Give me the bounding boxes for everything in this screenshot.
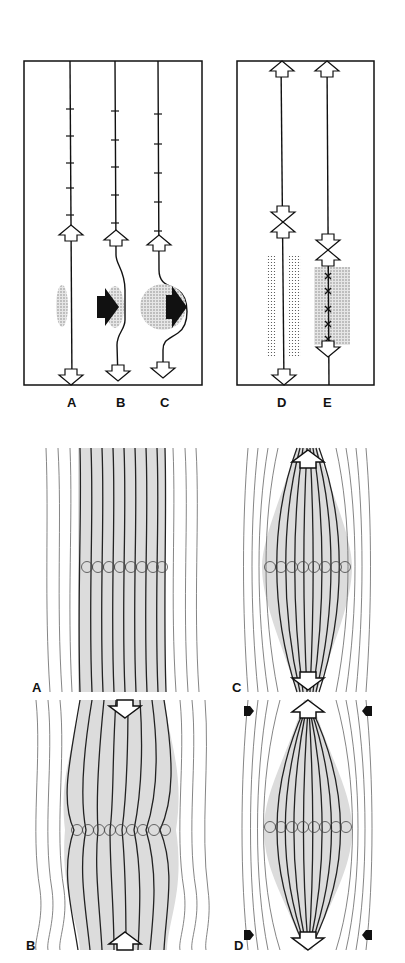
down-arrow-icon — [316, 234, 340, 250]
shaded-band — [314, 267, 350, 345]
label-c: C — [232, 680, 242, 695]
column-e — [314, 61, 350, 385]
constricted-band — [64, 700, 179, 950]
panel-frame — [237, 61, 374, 385]
column-d — [266, 61, 301, 385]
dotted-band-left — [266, 256, 276, 356]
stippled-blob — [56, 285, 68, 327]
label-a: A — [32, 680, 42, 695]
up-arrow-icon — [270, 61, 294, 77]
up-arrow-icon — [147, 235, 171, 251]
label-c: C — [160, 395, 170, 410]
column-a — [56, 61, 83, 385]
label-b: B — [26, 938, 35, 953]
spindle-band — [262, 448, 352, 692]
label-a: A — [67, 395, 77, 410]
column-b — [97, 61, 130, 381]
figure-canvas: A B C — [0, 0, 405, 963]
label-d: D — [234, 938, 243, 953]
bottom-panel-a: A — [32, 448, 199, 695]
up-arrow-icon — [271, 222, 295, 238]
top-right-panel: D E — [237, 61, 374, 410]
label-d: D — [277, 395, 286, 410]
compression-arrow-icon — [362, 930, 372, 940]
up-arrow-icon — [315, 61, 339, 77]
label-e: E — [323, 395, 332, 410]
down-arrow-icon — [59, 369, 83, 385]
outward-arrow-icon — [292, 700, 324, 718]
bottom-panel-d: D — [205, 700, 372, 953]
bottom-panel-b: B — [26, 700, 197, 953]
down-arrow-icon — [271, 206, 295, 222]
top-left-panel: A B C — [24, 61, 202, 410]
left-wavy-fibre — [205, 700, 209, 950]
down-arrow-icon — [151, 362, 175, 378]
bottom-panel-c: C — [232, 448, 371, 695]
dotted-band-right — [289, 256, 301, 356]
compression-arrow-icon — [244, 706, 254, 716]
up-arrow-icon — [104, 230, 128, 246]
compression-arrow-icon — [244, 930, 254, 940]
label-b: B — [116, 395, 125, 410]
compression-arrow-icon — [362, 706, 372, 716]
down-arrow-icon — [272, 369, 296, 385]
up-arrow-icon — [59, 225, 83, 241]
up-arrow-icon — [316, 250, 340, 266]
outward-arrow-icon — [292, 932, 324, 950]
column-c — [140, 61, 187, 378]
down-arrow-icon — [106, 365, 130, 381]
